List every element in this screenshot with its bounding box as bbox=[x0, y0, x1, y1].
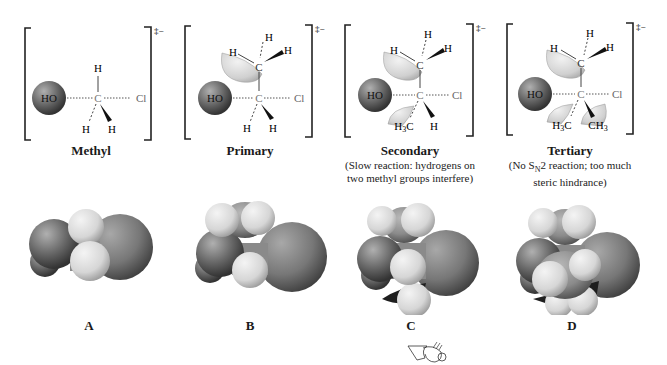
methyl-group-label: H3C bbox=[394, 120, 413, 134]
svg-text:H: H bbox=[82, 123, 90, 135]
space-filling-model-D bbox=[495, 195, 667, 315]
panel-title: Primary bbox=[165, 143, 335, 159]
model-label: C bbox=[391, 318, 431, 334]
panel-note: (No SN2 reaction; too much steric hindra… bbox=[485, 159, 655, 189]
svg-text:Cl: Cl bbox=[452, 89, 462, 101]
svg-text:H: H bbox=[444, 42, 452, 54]
svg-text:HO: HO bbox=[367, 89, 383, 101]
space-filling-model-C bbox=[330, 195, 500, 315]
svg-text:Cl: Cl bbox=[294, 92, 304, 104]
svg-text:H: H bbox=[265, 31, 273, 43]
panel-note: (Slow reaction: hydrogens on two methyl … bbox=[325, 159, 495, 185]
bird-sketch-icon bbox=[405, 340, 465, 365]
svg-text:H: H bbox=[430, 120, 438, 132]
svg-text:Cl: Cl bbox=[612, 88, 622, 100]
svg-text:H: H bbox=[390, 44, 398, 56]
note-line-1: (No SN2 reaction; too much bbox=[485, 159, 655, 176]
svg-text:C: C bbox=[255, 61, 262, 73]
svg-text:C: C bbox=[255, 92, 262, 104]
svg-text:H: H bbox=[229, 46, 237, 58]
svg-text:C: C bbox=[577, 88, 584, 100]
methyl-group-right-label: CH3 bbox=[588, 119, 607, 133]
svg-text:HO: HO bbox=[207, 92, 223, 104]
svg-text:‡−: ‡− bbox=[315, 24, 325, 34]
model-label: A bbox=[69, 318, 109, 334]
svg-text:H: H bbox=[243, 122, 251, 134]
panel-title: Tertiary bbox=[485, 143, 655, 159]
svg-text:‡−: ‡− bbox=[636, 22, 646, 32]
svg-text:C: C bbox=[416, 89, 423, 101]
nucleophile-label: HO bbox=[41, 92, 57, 104]
svg-text:H: H bbox=[108, 123, 116, 135]
panel-methyl: HO C Cl H H H ‡− Methyl A bbox=[0, 0, 170, 360]
panel-secondary: HO C C Cl H H H H3C H ‡− Secondary (Slow… bbox=[330, 0, 500, 365]
carbon-label: C bbox=[94, 92, 101, 104]
svg-text:H: H bbox=[284, 44, 292, 56]
space-filling-model-B bbox=[170, 195, 340, 305]
svg-text:H: H bbox=[586, 27, 594, 39]
svg-text:H: H bbox=[269, 122, 277, 134]
svg-text:H: H bbox=[606, 41, 614, 53]
methyl-group-left-label: H3C bbox=[552, 119, 571, 133]
svg-text:C: C bbox=[416, 59, 423, 71]
panel-title: Methyl bbox=[6, 143, 176, 159]
space-filling-model-A bbox=[0, 205, 170, 315]
svg-text:H: H bbox=[94, 62, 102, 74]
model-label: B bbox=[230, 318, 270, 334]
model-label: D bbox=[552, 318, 592, 334]
svg-text:‡−: ‡− bbox=[476, 23, 486, 33]
svg-text:C: C bbox=[577, 57, 584, 69]
transition-state-charge: ‡− bbox=[154, 26, 164, 36]
svg-text:HO: HO bbox=[527, 88, 543, 100]
svg-text:H: H bbox=[550, 42, 558, 54]
svg-text:H: H bbox=[424, 28, 432, 40]
panel-primary: HO C C Cl H H H H H ‡− Primary B bbox=[170, 0, 340, 360]
panel-tertiary: HO C C Cl H H H H3C CH3 ‡− Tertiary (No … bbox=[495, 0, 667, 365]
leaving-group-label: Cl bbox=[136, 92, 146, 104]
panel-title: Secondary bbox=[325, 143, 495, 159]
